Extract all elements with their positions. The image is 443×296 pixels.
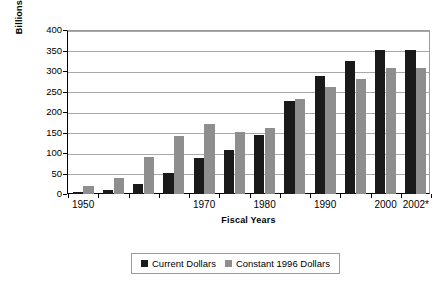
x-tick-mark [189, 194, 190, 198]
bar-group [159, 30, 189, 194]
bar-current [163, 173, 173, 194]
bar-constant [325, 87, 335, 194]
bar-constant [416, 68, 426, 194]
x-tick-mark [98, 194, 99, 198]
bar-current [254, 135, 264, 194]
y-tick-label: 100 [22, 148, 62, 158]
x-tick-mark [280, 194, 281, 198]
y-tick-label: 250 [22, 87, 62, 97]
y-tick-label: 300 [22, 66, 62, 76]
y-tick-label: 50 [22, 169, 62, 179]
x-tick-mark [159, 194, 160, 198]
y-tick-mark [63, 92, 67, 93]
bar-constant [174, 136, 184, 194]
bar-constant [204, 124, 214, 194]
bar-current [194, 158, 204, 194]
x-tick-label: 1950 [53, 199, 113, 210]
bar-current [224, 150, 234, 194]
x-tick-label: 1980 [235, 199, 295, 210]
x-axis-title: Fiscal Years [67, 215, 430, 225]
bar-constant [295, 99, 305, 194]
y-tick-label: 150 [22, 128, 62, 138]
x-tick-mark [401, 194, 402, 198]
x-tick-mark [431, 194, 432, 198]
y-tick-mark [63, 51, 67, 52]
bar-constant [83, 186, 93, 194]
chart-legend: Current DollarsConstant 1996 Dollars [131, 253, 340, 274]
bar-group [401, 30, 431, 194]
bar-group [68, 30, 98, 194]
y-tick-mark [63, 112, 67, 113]
y-tick-label: 350 [22, 46, 62, 56]
bar-group [219, 30, 249, 194]
y-tick-mark [63, 194, 67, 195]
x-tick-mark [68, 194, 69, 198]
bar-constant [265, 128, 275, 194]
bar-group [250, 30, 280, 194]
x-tick-label: 1970 [174, 199, 234, 210]
bar-group [98, 30, 128, 194]
x-tick-mark [340, 194, 341, 198]
chart-figure: Billions of Dollars 40035030025020015010… [0, 0, 443, 296]
x-tick-mark [310, 194, 311, 198]
y-tick-mark [63, 30, 67, 31]
bars-layer [68, 30, 429, 194]
x-tick-mark [219, 194, 220, 198]
y-tick-mark [63, 71, 67, 72]
bar-group [280, 30, 310, 194]
y-tick-mark [63, 153, 67, 154]
bar-current [103, 190, 113, 194]
bar-group [129, 30, 159, 194]
legend-item: Current Dollars [141, 258, 216, 269]
bar-current [284, 101, 294, 194]
x-tick-mark [371, 194, 372, 198]
y-tick-mark [63, 174, 67, 175]
x-tick-label: 1990 [295, 199, 355, 210]
legend-item-label: Current Dollars [152, 258, 216, 269]
bar-current [405, 50, 415, 194]
bar-constant [144, 157, 154, 194]
bar-current [315, 76, 325, 194]
x-tick-mark [129, 194, 130, 198]
bar-current [73, 192, 83, 194]
legend-item: Constant 1996 Dollars [225, 258, 330, 269]
bar-group [371, 30, 401, 194]
bar-constant [235, 132, 245, 194]
bar-group [310, 30, 340, 194]
bar-current [345, 61, 355, 194]
x-tick-label: 2002* [386, 199, 443, 210]
y-tick-mark [63, 133, 67, 134]
y-tick-label: 0 [22, 189, 62, 199]
bar-group [340, 30, 370, 194]
legend-swatch-icon [225, 260, 232, 267]
bar-constant [114, 178, 124, 194]
x-tick-mark [250, 194, 251, 198]
legend-swatch-icon [141, 260, 148, 267]
bar-current [375, 50, 385, 194]
legend-item-label: Constant 1996 Dollars [236, 258, 330, 269]
bar-current [133, 184, 143, 194]
bar-constant [356, 79, 366, 194]
y-tick-label: 400 [22, 25, 62, 35]
bar-constant [386, 68, 396, 194]
bar-group [189, 30, 219, 194]
y-tick-label: 200 [22, 107, 62, 117]
